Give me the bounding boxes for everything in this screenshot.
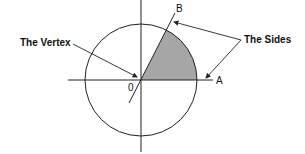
vertex-arrow	[73, 44, 137, 77]
sides-label: The Sides	[244, 35, 291, 45]
shaded-sector	[141, 30, 197, 80]
point-b-label: B	[176, 4, 183, 14]
point-a-label: A	[216, 76, 223, 86]
angle-diagram	[0, 0, 305, 154]
origin-label: 0	[128, 83, 134, 93]
sides-arrow-b	[174, 22, 241, 40]
sides-arrow-a	[206, 40, 241, 78]
vertex-label: The Vertex	[20, 38, 71, 48]
